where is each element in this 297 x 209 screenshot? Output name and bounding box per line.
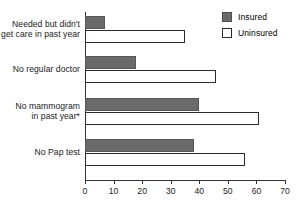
bar-chart: Insured Uninsured Needed but didn'tget c… [0,0,297,209]
bar-insured [85,139,194,152]
bar-row [85,112,285,125]
bar-row [85,153,285,166]
x-tick-label: 60 [244,186,268,196]
bar-group [85,98,285,125]
x-tick-mark [114,180,115,184]
category-label-line: No mammogram [0,101,80,112]
bar-row [85,16,285,29]
category-label-line: get care in past year [0,29,80,40]
bar-row [85,139,285,152]
x-tick-mark [256,180,257,184]
x-tick-label: 10 [102,186,126,196]
bar-row [85,70,285,83]
x-tick-mark [85,180,86,184]
bar-row [85,30,285,43]
x-tick-label: 50 [216,186,240,196]
x-tick-label: 30 [159,186,183,196]
bar-uninsured [85,112,259,125]
bar-uninsured [85,70,216,83]
x-tick-mark [285,180,286,184]
category-label-line: No Pap test [0,147,80,158]
x-tick-label: 20 [130,186,154,196]
category-label-line: in past year* [0,111,80,122]
category-label: No Pap test [0,147,80,158]
x-tick-mark [171,180,172,184]
bar-group [85,16,285,43]
plot-area [85,12,285,180]
bar-row [85,56,285,69]
category-label: Needed but didn'tget care in past year [0,19,80,40]
x-tick-mark [199,180,200,184]
bar-insured [85,16,105,29]
x-tick-label: 70 [273,186,297,196]
bar-insured [85,98,199,111]
bar-group [85,56,285,83]
x-tick-mark [228,180,229,184]
bar-insured [85,56,136,69]
category-label: No mammogramin past year* [0,101,80,122]
bar-uninsured [85,30,185,43]
bar-row [85,98,285,111]
category-label-line: Needed but didn't [0,19,80,30]
bar-group [85,139,285,166]
x-tick-label: 40 [187,186,211,196]
category-label-line: No regular doctor [0,64,80,75]
category-label: No regular doctor [0,64,80,75]
bar-uninsured [85,153,245,166]
x-tick-mark [142,180,143,184]
x-tick-label: 0 [73,186,97,196]
